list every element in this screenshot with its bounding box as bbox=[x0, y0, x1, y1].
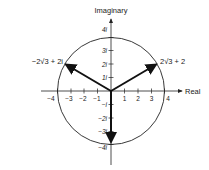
svg-text:−i: −i bbox=[102, 101, 108, 108]
svg-text:−1: −1 bbox=[93, 95, 101, 102]
complex-plane-diagram: Imaginary Real −4 −3 −2 −1 1 2 3 4 1i 2i… bbox=[0, 0, 209, 170]
left-point-label: −2√3 + 2i bbox=[32, 57, 64, 66]
svg-text:4i: 4i bbox=[102, 26, 108, 33]
real-axis-label: Real bbox=[185, 87, 201, 96]
svg-text:−4: −4 bbox=[47, 95, 55, 102]
svg-text:2: 2 bbox=[136, 95, 140, 102]
svg-text:3i: 3i bbox=[102, 47, 108, 54]
svg-text:1i: 1i bbox=[102, 74, 108, 81]
imaginary-axis-label: Imaginary bbox=[95, 6, 128, 15]
svg-text:1: 1 bbox=[123, 95, 127, 102]
vector-right bbox=[111, 65, 156, 92]
svg-text:−2: −2 bbox=[79, 95, 87, 102]
svg-text:−3i: −3i bbox=[98, 128, 107, 135]
svg-text:−4i: −4i bbox=[98, 144, 107, 151]
svg-text:2i: 2i bbox=[101, 61, 108, 68]
svg-text:−2i: −2i bbox=[98, 115, 107, 122]
svg-text:4: 4 bbox=[166, 95, 170, 102]
right-point-label: 2√3 + 2 bbox=[160, 57, 185, 66]
svg-text:3: 3 bbox=[150, 95, 154, 102]
real-tick-labels: −4 −3 −2 −1 1 2 3 4 bbox=[47, 95, 170, 102]
svg-text:−3: −3 bbox=[65, 95, 73, 102]
